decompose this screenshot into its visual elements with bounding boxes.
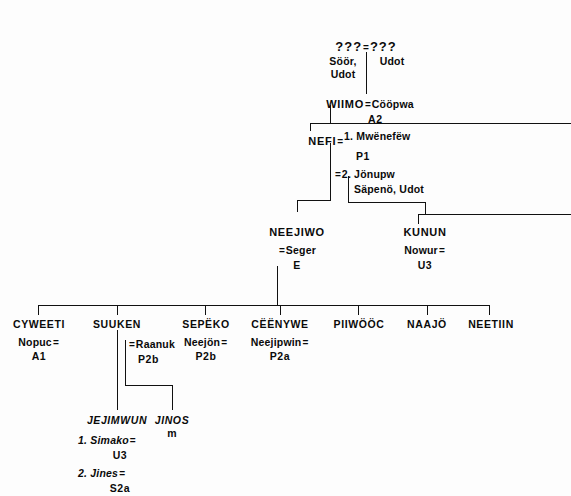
sibling-tick-naajo bbox=[427, 305, 428, 315]
genealogy-diagram: ???=??? Söör, Udot Udot WIIMO=Cööpwa A2 … bbox=[0, 0, 571, 496]
unknown-husband-origin-line1: Söör, bbox=[321, 55, 365, 68]
nefi-marriage1-label: 1. Mwënefëw bbox=[344, 130, 454, 143]
cyweeti-spouse-row: Nopuc= bbox=[4, 331, 74, 351]
sepeko-name: SEPËKO bbox=[172, 318, 240, 331]
neejiwo-marriage-equals-icon: = bbox=[278, 245, 286, 256]
sibling-bar-g3-left bbox=[297, 200, 331, 201]
unknown-husband-origin: Söör, Udot bbox=[321, 55, 365, 81]
ceenywe-code-value: P2a bbox=[238, 350, 322, 363]
nefi-marriage2-origin: Säpenö, Udot bbox=[354, 178, 474, 198]
suuken-marriage-equals-icon: = bbox=[128, 339, 136, 350]
ceenywe-spouse-row: Neejipwin= bbox=[238, 331, 322, 351]
descent-line-neejiwo-to-bar bbox=[277, 266, 278, 306]
ceenywe-spouse-name: Neejipwin bbox=[251, 336, 302, 348]
wiimo-code: A2 bbox=[368, 108, 428, 128]
kunun-code-value: U3 bbox=[381, 259, 469, 272]
nefi-marriage2-equals-icon: = bbox=[334, 169, 342, 180]
kunun-spouse-row: Nowur= bbox=[381, 239, 469, 259]
cyweeti-marriage-equals-icon: = bbox=[52, 337, 60, 348]
sibling-tick-ceenywe bbox=[280, 305, 281, 315]
jinos-name: JINOS bbox=[142, 414, 202, 427]
jejimwun-marriage1-code-value: U3 bbox=[113, 449, 128, 461]
sibling-tick-piiwooc bbox=[358, 305, 359, 315]
node-piiwooc: PIIWÖÖC bbox=[325, 318, 393, 331]
node-neejiwo: NEEJIWO =Seger E bbox=[240, 226, 354, 272]
sibling-tick-suuken bbox=[117, 305, 118, 315]
sibling-bar-g2 bbox=[310, 123, 571, 124]
node-cyweeti: CYWEETI Nopuc= A1 bbox=[4, 318, 74, 363]
jejimwun-marriage1-code: U3 bbox=[78, 444, 162, 464]
nefi-marriage-1: 1. Mwënefëw bbox=[344, 130, 454, 143]
neejiwo-spouse-name: Seger bbox=[286, 244, 316, 256]
neejiwo-name: NEEJIWO bbox=[240, 226, 354, 239]
sibling-bar-kunun-offpage bbox=[418, 214, 571, 215]
wiimo-name: WIIMO bbox=[326, 98, 364, 110]
descent-line-nefi-marriage1 bbox=[330, 143, 331, 201]
unknown-husband-name: ??? bbox=[335, 39, 362, 54]
descent-line-g1-to-bar bbox=[330, 105, 331, 124]
sepeko-marriage-equals-icon: = bbox=[220, 337, 228, 348]
neejiwo-spouse-row: =Seger bbox=[240, 239, 354, 259]
neejiwo-code-value: E bbox=[240, 259, 354, 272]
node-ceenywe: CËËNYWE Neejipwin= P2a bbox=[238, 318, 322, 363]
nefi-marriage2-origin-value: Säpenö, Udot bbox=[354, 183, 424, 195]
node-suuken: SUUKEN bbox=[84, 318, 150, 331]
unknown-husband-origin-line2: Udot bbox=[321, 68, 365, 81]
node-jinos: JINOS m bbox=[142, 414, 202, 440]
cyweeti-name: CYWEETI bbox=[4, 318, 74, 331]
kunun-name: KUNUN bbox=[381, 226, 469, 239]
descent-line-suuken bbox=[117, 330, 118, 410]
node-nefi: NEFI= bbox=[276, 130, 344, 150]
jejimwun-marriage2-code: S2a bbox=[78, 477, 162, 496]
jinos-code-value: m bbox=[142, 427, 202, 440]
descent-line-suuken-spouse bbox=[125, 340, 126, 385]
sepeko-code-value: P2b bbox=[172, 350, 240, 363]
suuken-code-value: P2b bbox=[138, 353, 159, 365]
sibling-tick-kunun bbox=[425, 202, 426, 214]
node-sepeko: SEPËKO Neejön= P2b bbox=[172, 318, 240, 363]
sibling-tick-cyweeti bbox=[38, 305, 39, 315]
naajo-name: NAAJÖ bbox=[397, 318, 457, 331]
ceenywe-name: CËËNYWE bbox=[238, 318, 322, 331]
unknown-wife-name: ??? bbox=[370, 39, 397, 54]
unknown-wife-origin-line1: Udot bbox=[371, 55, 413, 68]
sibling-tick-sepeko bbox=[205, 305, 206, 315]
descent-line-kunun bbox=[418, 214, 419, 224]
neetiin-name: NEETIIN bbox=[458, 318, 524, 331]
sibling-tick-neetiin bbox=[489, 305, 490, 315]
suuken-name: SUUKEN bbox=[84, 318, 150, 331]
nefi-name: NEFI bbox=[308, 135, 336, 147]
sepeko-spouse-name: Neejön bbox=[184, 336, 220, 348]
node-kunun: KUNUN Nowur= U3 bbox=[381, 226, 469, 272]
node-naajo: NAAJÖ bbox=[397, 318, 457, 331]
sibling-tick-neejiwo bbox=[297, 200, 298, 212]
cyweeti-spouse-name: Nopuc bbox=[18, 336, 52, 348]
node-neetiin: NEETIIN bbox=[458, 318, 524, 331]
kunun-marriage-equals-icon: = bbox=[438, 245, 446, 256]
sibling-bar-g5 bbox=[125, 385, 173, 386]
nefi-marriage1-equals-icon: = bbox=[336, 136, 344, 147]
cyweeti-code-value: A1 bbox=[4, 350, 74, 363]
piiwooc-name: PIIWÖÖC bbox=[325, 318, 393, 331]
ceenywe-marriage-equals-icon: = bbox=[301, 337, 309, 348]
descent-line-jinos bbox=[172, 385, 173, 410]
sibling-bar-g4 bbox=[38, 305, 490, 306]
jejimwun-marriage2-code-value: S2a bbox=[110, 482, 130, 494]
sepeko-spouse-row: Neejön= bbox=[172, 331, 240, 351]
nefi-marriage1-code: P1 bbox=[356, 145, 416, 165]
sibling-bar-g3-right bbox=[348, 202, 426, 203]
kunun-spouse-name: Nowur bbox=[404, 244, 438, 256]
unknown-wife-origin: Udot bbox=[371, 55, 413, 68]
couple-divider-line bbox=[366, 52, 367, 90]
nefi-marriage1-code-value: P1 bbox=[356, 150, 370, 162]
descent-line-nefi-marriage2 bbox=[348, 176, 349, 203]
